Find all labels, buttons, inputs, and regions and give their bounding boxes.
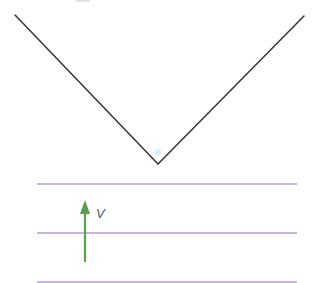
vertex-point: [155, 149, 161, 155]
velocity-arrow: [80, 200, 90, 262]
wedge: [15, 15, 304, 164]
arrow-up-icon: [80, 200, 90, 214]
diagram-canvas: V: [0, 0, 313, 283]
wedge-right-side: [158, 16, 304, 164]
velocity-label: V: [96, 206, 106, 221]
wedge-left-side: [15, 15, 158, 164]
parallel-lines: [37, 184, 297, 282]
